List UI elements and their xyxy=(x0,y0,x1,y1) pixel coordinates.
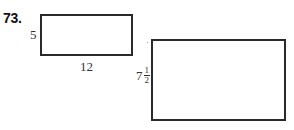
rectangle-b xyxy=(151,39,286,121)
fraction: 1 2 xyxy=(144,66,151,85)
rectangle-a-height-label: 5 xyxy=(30,28,37,41)
rectangle-b-height-label: 7 1 2 xyxy=(136,66,150,85)
scan-speck xyxy=(147,42,148,43)
rectangle-a-width-label: 12 xyxy=(80,60,93,73)
fraction-denominator: 2 xyxy=(144,76,151,85)
problem-number: 73. xyxy=(3,10,22,26)
rectangle-a xyxy=(40,14,133,56)
mixed-number-whole: 7 xyxy=(136,69,143,82)
